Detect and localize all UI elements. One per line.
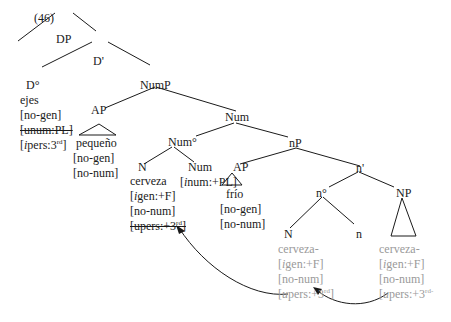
node-n-head: n [356,228,362,241]
node-np: NP [396,187,411,200]
leaf-d-word: ejes [20,93,73,108]
example-number: (46) [34,12,54,25]
leaf-ap1-num: [no-num] [73,166,118,181]
leaf-np: cerveza- [igen:+F] [no-num] [upers:+3rd- [379,242,433,302]
leaf-d-gen: [no-gen] [20,108,73,123]
leaf-n2-pers: [upers:+3rd] [278,287,334,302]
leaf-n-2: cerveza- [igen:+F] [no-num] [upers:+3rd] [278,242,334,302]
node-nump: NumP [140,79,171,92]
node-d0: D° [26,79,39,92]
leaf-np-num: [no-num] [379,272,433,287]
leaf-n1-num: [no-num] [130,204,186,219]
node-num-bar: Num [225,111,249,124]
leaf-ap-2: frío [no-gen] [no-num] [220,187,265,232]
node-dp: DP [56,33,71,46]
node-n-1: N [138,161,147,174]
leaf-np-gen: [igen:+F] [379,257,433,272]
node-n-bar: n' [356,162,364,175]
leaf-d: ejes [no-gen] [unum:PL] [ipers:3rd] [20,93,73,153]
leaf-ap2-word: frío [220,187,265,202]
leaf-ap1-gen: [no-gen] [73,151,118,166]
leaf-n1-gen: [igen:+F] [130,189,186,204]
leaf-ap2-gen: [no-gen] [220,202,265,217]
leaf-ap2-num: [no-num] [220,217,265,232]
leaf-n2-word: cerveza- [278,242,334,257]
leaf-d-pers: [ipers:3rd] [20,138,73,153]
leaf-n-1: cerveza [igen:+F] [no-num] [upers:+3rd] [130,174,186,234]
leaf-np-word: cerveza- [379,242,433,257]
leaf-np-pers: [upers:+3rd- [379,287,433,302]
leaf-ap-1: pequeño [no-gen] [no-num] [73,136,118,181]
leaf-n2-num: [no-num] [278,272,334,287]
node-ap-1: AP [91,104,106,117]
leaf-n2-gen: [igen:+F] [278,257,334,272]
leaf-n1-word: cerveza [130,174,186,189]
node-ap-2: AP [233,161,248,174]
leaf-ap1-word: pequeño [73,136,118,151]
leaf-d-num: [unum:PL] [20,123,73,138]
node-num-head: Num [188,161,212,174]
node-num0: Num° [168,136,197,149]
node-n-2: N [284,228,293,241]
node-n0: n° [316,187,327,200]
node-np-small: nP [289,137,302,150]
node-d-bar: D' [93,55,104,68]
leaf-n1-pers: [upers:+3rd] [130,219,186,234]
